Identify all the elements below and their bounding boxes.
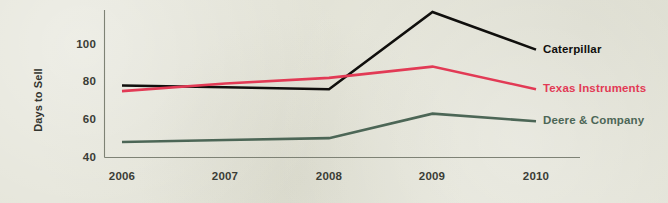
- series-line-texas-instruments: [122, 67, 536, 91]
- y-tick-label-80: 80: [83, 75, 96, 87]
- y-axis-title: Days to Sell: [32, 68, 44, 132]
- series-line-deere-and-company: [122, 114, 536, 142]
- series-label-deere-and-company: Deere & Company: [543, 114, 645, 126]
- y-tick-label-100: 100: [76, 38, 96, 50]
- series-label-texas-instruments: Texas Instruments: [543, 82, 646, 94]
- x-tick-label-2007: 2007: [212, 170, 238, 182]
- x-tick-label-2010: 2010: [523, 170, 549, 182]
- chart-container: Days to Sell 100 80 60 40 2006 2007 2008…: [0, 0, 668, 203]
- line-chart: Days to Sell 100 80 60 40 2006 2007 2008…: [0, 0, 668, 203]
- x-tick-label-2009: 2009: [419, 170, 445, 182]
- series-label-caterpillar: Caterpillar: [543, 43, 602, 55]
- y-tick-labels: 100 80 60 40: [76, 38, 96, 163]
- y-tick-label-40: 40: [83, 151, 96, 163]
- x-tick-labels: 2006 2007 2008 2009 2010: [109, 170, 549, 182]
- x-tick-label-2008: 2008: [316, 170, 343, 182]
- y-tick-label-60: 60: [83, 113, 96, 125]
- x-tick-label-2006: 2006: [109, 170, 135, 182]
